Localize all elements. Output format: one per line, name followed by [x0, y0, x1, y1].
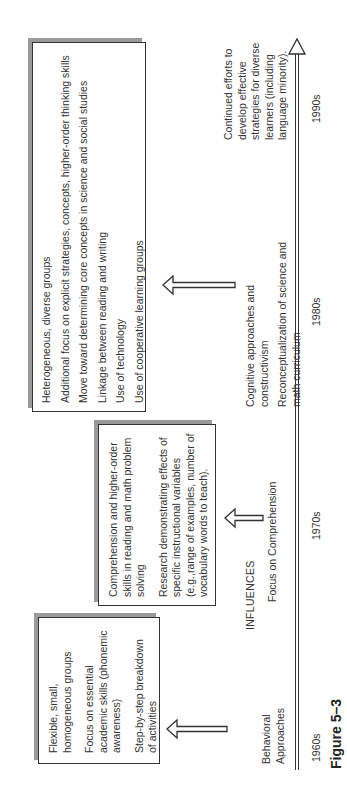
box-1970s: Comprehension and higher-order skills in… — [98, 424, 216, 606]
timeline-diagram: Flexible, small, homogeneous groups Focu… — [0, 0, 347, 802]
decade-1990s: 1990s — [310, 94, 322, 123]
box-1980s-item: Linkage between reading and writing — [96, 51, 110, 403]
box-1960s-item: Step-by-step breakdown of activities — [133, 628, 160, 753]
influence-1990s: Continued efforts to develop effective s… — [222, 22, 290, 140]
box-1980s-item: Use of cooperative learning groups — [133, 51, 147, 403]
up-arrow-icon — [225, 509, 263, 527]
decade-1980s: 1980s — [310, 297, 322, 326]
figure-label: Figure 5–3 — [328, 699, 344, 769]
box-1960s-item: Focus on essential academic skills (phon… — [83, 628, 124, 753]
up-arrow-icon — [167, 720, 227, 738]
box-1980s-item: Heterogeneous, diverse groups — [40, 51, 54, 403]
box-1980s-item: Move toward determining core concepts in… — [77, 51, 91, 403]
influence-1960s: Behavioral Approaches — [260, 708, 287, 764]
decade-1960s: 1960s — [310, 733, 322, 762]
box-1960s-item: Flexible, small, homogeneous groups — [47, 628, 74, 753]
timeline-arrowhead-icon — [288, 38, 306, 54]
box-1980s-item: Use of technology — [114, 51, 128, 403]
up-arrow-icon — [163, 276, 235, 294]
box-1970s-item: Research demonstrating effects of specif… — [157, 433, 211, 597]
box-1980s: Heterogeneous, diverse groups Additional… — [32, 42, 146, 412]
influence-1970s: Focus on Comprehension — [266, 482, 280, 602]
decade-1970s: 1970s — [310, 511, 322, 540]
box-1970s-item: Comprehension and higher-order skills in… — [107, 433, 148, 597]
box-1980s-item: Additional focus on explicit strategies,… — [59, 51, 73, 403]
timeline-axis — [295, 52, 299, 770]
influences-label: INFLUENCES — [244, 560, 258, 630]
box-1960s: Flexible, small, homogeneous groups Focu… — [38, 617, 160, 764]
